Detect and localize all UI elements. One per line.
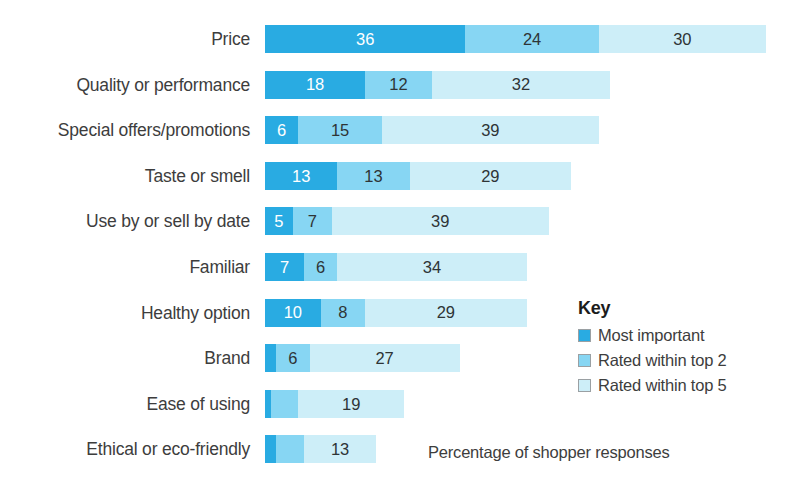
bar-segment: 29 [410, 162, 571, 190]
bar-value-label: 5 [274, 213, 283, 230]
bar-value-label: 39 [481, 122, 499, 139]
bar-segment [265, 344, 276, 372]
legend-color-swatch [578, 329, 591, 342]
legend-item: Most important [578, 326, 788, 345]
stacked-bar: 13 [265, 435, 376, 463]
stacked-bar: 7634 [265, 253, 527, 281]
bar-value-label: 7 [280, 259, 289, 276]
bar-segment: 6 [265, 116, 298, 144]
legend-item-list: Most importantRated within top 2Rated wi… [578, 326, 788, 395]
bar-value-label: 19 [342, 396, 360, 413]
bar-segment: 7 [293, 207, 332, 235]
chart-row: Taste or smell131329 [0, 161, 793, 191]
bar-segment: 8 [321, 299, 366, 327]
bar-segment: 39 [332, 207, 549, 235]
bar-segment: 6 [304, 253, 337, 281]
bar-value-label: 12 [389, 76, 407, 93]
bar-segment: 10 [265, 299, 321, 327]
category-label: Ethical or eco-friendly [0, 434, 250, 464]
bar-segment: 7 [265, 253, 304, 281]
bar-value-label: 13 [364, 168, 382, 185]
bar-segment: 12 [365, 71, 432, 99]
bar-segment: 30 [599, 25, 766, 53]
stacked-bar: 131329 [265, 162, 571, 190]
bar-value-label: 30 [673, 31, 691, 48]
chart-row: Special offers/promotions61539 [0, 115, 793, 145]
stacked-bar: 10829 [265, 299, 527, 327]
legend-label: Most important [598, 326, 704, 345]
bar-value-label: 34 [423, 259, 441, 276]
x-axis-caption: Percentage of shopper responses [428, 443, 669, 462]
chart-row: Use by or sell by date5739 [0, 206, 793, 236]
category-label: Price [0, 24, 250, 54]
category-label: Healthy option [0, 298, 250, 328]
category-label: Brand [0, 343, 250, 373]
category-label: Ease of using [0, 389, 250, 419]
stacked-bar: 61539 [265, 116, 599, 144]
category-label: Taste or smell [0, 161, 250, 191]
bar-segment: 32 [432, 71, 610, 99]
bar-value-label: 13 [331, 441, 349, 458]
bar-value-label: 10 [284, 304, 302, 321]
bar-value-label: 15 [331, 122, 349, 139]
chart-row: Price362430 [0, 24, 793, 54]
legend-label: Rated within top 5 [598, 376, 726, 395]
legend-color-swatch [578, 379, 591, 392]
bar-value-label: 39 [431, 213, 449, 230]
category-label: Familiar [0, 252, 250, 282]
bar-segment: 15 [298, 116, 381, 144]
bar-value-label: 36 [356, 31, 374, 48]
stacked-bar: 5739 [265, 207, 549, 235]
bar-segment: 18 [265, 71, 365, 99]
bar-value-label: 29 [437, 304, 455, 321]
bar-segment: 5 [265, 207, 293, 235]
stacked-bar: 627 [265, 344, 460, 372]
legend-item: Rated within top 5 [578, 376, 788, 395]
bar-segment: 27 [310, 344, 460, 372]
chart-legend: Key Most importantRated within top 2Rate… [578, 298, 788, 401]
chart-row: Ethical or eco-friendly13 [0, 434, 793, 464]
bar-segment: 13 [337, 162, 409, 190]
bar-segment: 39 [382, 116, 599, 144]
bar-segment [276, 435, 304, 463]
bar-value-label: 7 [308, 213, 317, 230]
bar-value-label: 27 [375, 350, 393, 367]
category-label: Use by or sell by date [0, 206, 250, 236]
category-label: Quality or performance [0, 70, 250, 100]
bar-segment: 19 [298, 390, 404, 418]
bar-segment [265, 435, 276, 463]
legend-label: Rated within top 2 [598, 351, 726, 370]
bar-segment: 24 [465, 25, 599, 53]
bar-segment: 13 [265, 162, 337, 190]
bar-segment: 34 [337, 253, 526, 281]
bar-segment: 36 [265, 25, 465, 53]
bar-segment: 29 [365, 299, 526, 327]
bar-value-label: 13 [292, 168, 310, 185]
chart-row: Familiar7634 [0, 252, 793, 282]
category-label: Special offers/promotions [0, 115, 250, 145]
bar-segment: 6 [276, 344, 309, 372]
bar-value-label: 24 [523, 31, 541, 48]
chart-row: Quality or performance181232 [0, 70, 793, 100]
bar-value-label: 32 [512, 76, 530, 93]
stacked-bar-chart: Price362430Quality or performance181232S… [0, 0, 793, 498]
bar-value-label: 6 [288, 350, 297, 367]
bar-segment: 13 [304, 435, 376, 463]
bar-value-label: 29 [481, 168, 499, 185]
legend-color-swatch [578, 354, 591, 367]
bar-value-label: 8 [338, 304, 347, 321]
stacked-bar: 362430 [265, 25, 766, 53]
bar-value-label: 6 [277, 122, 286, 139]
stacked-bar: 181232 [265, 71, 610, 99]
bar-value-label: 18 [306, 76, 324, 93]
bar-value-label: 6 [316, 259, 325, 276]
bar-segment [271, 390, 299, 418]
legend-item: Rated within top 2 [578, 351, 788, 370]
stacked-bar: 19 [265, 390, 404, 418]
legend-title: Key [578, 298, 788, 319]
